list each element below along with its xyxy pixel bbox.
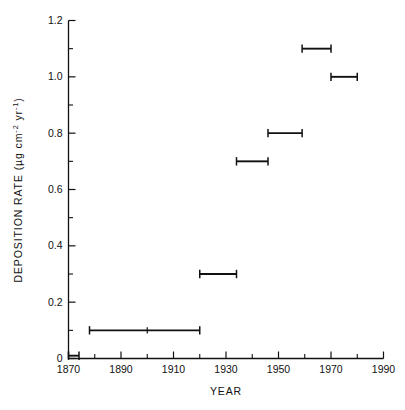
x-axis-tick-labels: 1870189019101930195019701990 <box>57 363 396 375</box>
x-tick-label: 1910 <box>162 363 186 375</box>
x-tick-label: 1890 <box>109 363 133 375</box>
axes <box>69 21 384 359</box>
x-tick-label: 1870 <box>57 363 81 375</box>
y-axis-tick-labels: 00.20.40.60.81.01.2 <box>48 14 63 364</box>
x-axis-title: YEAR <box>210 385 242 397</box>
y-tick-label: 0.8 <box>48 127 63 139</box>
data-interval <box>268 129 302 137</box>
svg-text:DEPOSITION RATE (µg cm-2 yr-1): DEPOSITION RATE (µg cm-2 yr-1) <box>11 97 24 282</box>
data-interval <box>200 270 237 278</box>
y-axis-title-close: ) <box>12 97 24 101</box>
y-tick-label: 0.2 <box>48 296 63 308</box>
data-series-intervals <box>69 44 358 359</box>
data-interval <box>302 44 331 52</box>
y-axis-ticks <box>69 21 76 359</box>
y-axis-title-main: DEPOSITION RATE ( <box>12 166 24 283</box>
y-axis-title-unit-mass: µg cm <box>12 133 24 166</box>
y-tick-label: 1.2 <box>48 14 63 26</box>
x-tick-label: 1990 <box>372 363 396 375</box>
x-tick-label: 1970 <box>319 363 343 375</box>
y-tick-label: 1.0 <box>48 70 63 82</box>
data-interval <box>331 73 357 81</box>
y-axis-title: DEPOSITION RATE (µg cm-2 yr-1) <box>11 97 24 282</box>
x-tick-label: 1930 <box>214 363 238 375</box>
y-tick-label: 0.6 <box>48 183 63 195</box>
y-axis-title-exp-area: -2 <box>11 124 20 132</box>
data-interval <box>90 326 200 334</box>
y-axis-title-exp-time: -1 <box>11 102 20 110</box>
x-axis-ticks <box>69 352 384 359</box>
y-tick-label: 0.4 <box>48 239 63 251</box>
data-interval <box>237 157 269 165</box>
y-axis-title-unit-time: yr <box>12 110 24 124</box>
x-tick-label: 1950 <box>267 363 291 375</box>
chart-figure: 00.20.40.60.81.01.2 18701890191019301950… <box>0 0 405 410</box>
chart-canvas: 00.20.40.60.81.01.2 18701890191019301950… <box>0 0 405 410</box>
